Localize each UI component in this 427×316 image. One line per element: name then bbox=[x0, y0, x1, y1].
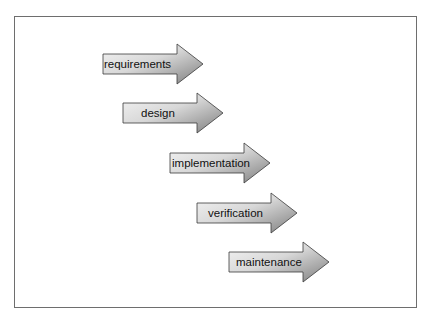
process-arrow-verification: verification bbox=[197, 193, 297, 233]
process-arrow-requirements: requirements bbox=[103, 44, 203, 84]
process-arrow-implementation: implementation bbox=[170, 143, 270, 183]
arrow-label: implementation bbox=[172, 157, 250, 169]
arrow-label: requirements bbox=[104, 58, 171, 70]
waterfall-diagram: requirementsdesignimplementationverifica… bbox=[0, 0, 427, 316]
process-arrow-design: design bbox=[123, 93, 223, 133]
arrow-label: verification bbox=[208, 207, 263, 219]
process-arrow-maintenance: maintenance bbox=[229, 242, 329, 282]
arrow-label: maintenance bbox=[236, 256, 302, 268]
arrow-label: design bbox=[141, 107, 175, 119]
